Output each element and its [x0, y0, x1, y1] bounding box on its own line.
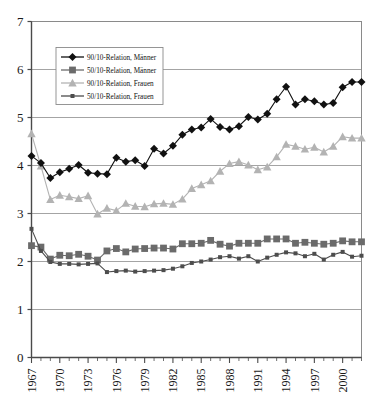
- legend-label-4: 50/10-Relation, Frauen: [87, 93, 154, 101]
- data-point-small-square: [133, 270, 137, 274]
- data-point-small-square: [67, 262, 71, 266]
- data-point-square: [302, 239, 309, 246]
- data-point-small-square: [58, 262, 62, 266]
- data-point-square: [226, 243, 233, 250]
- data-point-square: [330, 240, 337, 247]
- x-tick-label-2000: 2000: [336, 369, 350, 393]
- data-point-small-square: [256, 260, 260, 264]
- data-point-small-square: [124, 269, 128, 273]
- data-point-small-square: [162, 268, 166, 272]
- data-point-square: [141, 245, 148, 252]
- data-point-square: [104, 248, 111, 255]
- chart-container: 0123456719671970197319761979198219851988…: [0, 0, 370, 411]
- data-point-square: [188, 240, 195, 247]
- data-point-small-square: [96, 261, 100, 265]
- legend: 90/10-Relation, Männer50/10-Relation, Mä…: [56, 48, 163, 105]
- data-point-small-square: [30, 227, 34, 231]
- data-point-small-square: [303, 254, 307, 258]
- x-tick-label-1988: 1988: [223, 369, 237, 393]
- data-point-square: [66, 252, 73, 259]
- data-point-square: [28, 242, 35, 249]
- data-point-small-square: [360, 254, 364, 258]
- data-point-small-square: [105, 270, 109, 274]
- data-point-square: [113, 245, 120, 252]
- y-tick-label-5: 5: [17, 110, 24, 125]
- data-point-square: [283, 236, 290, 243]
- data-point-small-square: [48, 260, 52, 264]
- data-point-square: [207, 237, 214, 244]
- legend-label-3: 90/10-Relation, Frauen: [87, 80, 154, 88]
- x-tick-label-1973: 1973: [81, 369, 95, 393]
- y-tick-label-1: 1: [17, 302, 24, 317]
- y-tick-label-3: 3: [17, 206, 24, 221]
- data-point-square: [75, 251, 82, 258]
- data-point-square: [358, 238, 365, 245]
- data-point-square: [245, 240, 252, 247]
- data-point-square: [151, 245, 158, 252]
- y-tick-label-7: 7: [17, 14, 24, 29]
- x-tick-label-1994: 1994: [279, 369, 293, 393]
- data-point-small-square: [152, 269, 156, 273]
- y-tick-label-0: 0: [17, 350, 24, 365]
- data-point-small-square: [294, 251, 298, 255]
- data-point-small-square: [190, 261, 194, 265]
- data-point-small-square: [171, 267, 175, 271]
- data-point-small-square: [246, 254, 250, 258]
- x-tick-label-1997: 1997: [308, 369, 322, 393]
- data-point-small-square: [71, 94, 75, 98]
- data-point-small-square: [114, 269, 118, 273]
- data-point-small-square: [39, 249, 43, 253]
- x-tick-label-1982: 1982: [166, 369, 180, 393]
- data-point-small-square: [350, 255, 354, 259]
- x-tick-label-1979: 1979: [138, 369, 152, 393]
- data-point-square: [122, 249, 129, 256]
- data-point-square: [349, 238, 356, 245]
- data-point-small-square: [284, 250, 288, 254]
- data-point-small-square: [275, 253, 279, 257]
- legend-label-2: 50/10-Relation, Männer: [87, 67, 157, 75]
- x-tick-label-1991: 1991: [251, 369, 265, 393]
- data-point-square: [311, 240, 318, 247]
- data-point-square: [339, 237, 346, 244]
- data-point-small-square: [237, 257, 241, 261]
- data-point-square: [254, 240, 261, 247]
- data-point-small-square: [265, 256, 269, 260]
- data-point-square: [320, 241, 327, 248]
- data-point-square: [264, 236, 271, 243]
- data-point-small-square: [341, 250, 345, 254]
- data-point-small-square: [199, 260, 203, 264]
- data-point-square: [69, 67, 76, 74]
- data-point-square: [198, 240, 205, 247]
- data-point-square: [217, 241, 224, 248]
- data-point-small-square: [180, 264, 184, 268]
- data-point-small-square: [77, 262, 81, 266]
- data-point-small-square: [209, 258, 213, 262]
- y-tick-label-6: 6: [17, 62, 24, 77]
- data-point-square: [273, 236, 280, 243]
- data-point-square: [56, 252, 63, 259]
- data-point-square: [179, 240, 186, 247]
- line-chart: 0123456719671970197319761979198219851988…: [0, 0, 370, 411]
- data-point-square: [236, 240, 243, 247]
- legend-label-1: 90/10-Relation, Männer: [87, 54, 157, 62]
- y-tick-label-4: 4: [17, 158, 24, 173]
- data-point-small-square: [228, 254, 232, 258]
- data-point-small-square: [322, 258, 326, 262]
- data-point-square: [292, 240, 299, 247]
- data-point-small-square: [143, 269, 147, 273]
- x-tick-label-1976: 1976: [110, 369, 124, 393]
- data-point-small-square: [86, 262, 90, 266]
- data-point-small-square: [312, 252, 316, 256]
- y-tick-label-2: 2: [17, 254, 24, 269]
- chart-background: [0, 0, 370, 411]
- x-tick-label-1985: 1985: [194, 369, 208, 393]
- data-point-square: [170, 246, 177, 253]
- x-tick-label-1967: 1967: [25, 369, 39, 393]
- x-tick-label-1970: 1970: [53, 369, 67, 393]
- data-point-small-square: [218, 255, 222, 259]
- data-point-small-square: [331, 253, 335, 257]
- data-point-square: [132, 246, 139, 253]
- data-point-square: [85, 253, 92, 260]
- data-point-square: [160, 245, 167, 252]
